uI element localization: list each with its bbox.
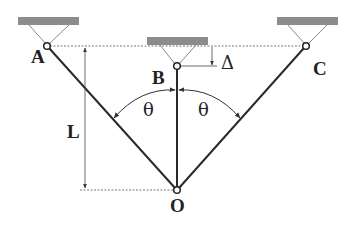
diagram-canvas: A B C O L Δ θ θ <box>0 0 343 226</box>
support-c <box>277 17 338 44</box>
support-a <box>18 17 79 44</box>
support-b <box>147 37 208 64</box>
angle-arc-right <box>179 90 240 118</box>
label-c: C <box>313 58 327 79</box>
pivot-b <box>174 63 181 70</box>
label-o: O <box>170 195 185 216</box>
joint-o <box>174 187 181 194</box>
label-a: A <box>31 46 45 67</box>
pivot-c <box>303 43 310 50</box>
label-theta-left: θ <box>143 99 154 120</box>
label-theta-right: θ <box>198 99 209 120</box>
label-b: B <box>152 67 165 88</box>
label-length: L <box>67 121 80 142</box>
label-delta: Δ <box>221 52 234 73</box>
